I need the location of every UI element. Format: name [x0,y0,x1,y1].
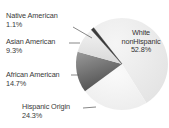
label-african-american: African American 14.7% [6,71,60,88]
leader-hispanic [83,107,96,108]
label-native-american: Native American 1.1% [6,12,58,29]
label-hispanic-origin-value: 24.3% [22,112,70,121]
label-hispanic-origin: Hispanic Origin 24.3% [22,103,70,120]
label-white-value: 52.8% [118,46,164,55]
label-african-american-value: 14.7% [6,80,60,89]
label-asian-american: Asian American 9.3% [6,38,55,55]
label-asian-american-value: 9.3% [6,47,55,56]
label-native-american-value: 1.1% [6,21,58,30]
label-white-nonhispanic: White nonHispanic 52.8% [118,29,164,55]
